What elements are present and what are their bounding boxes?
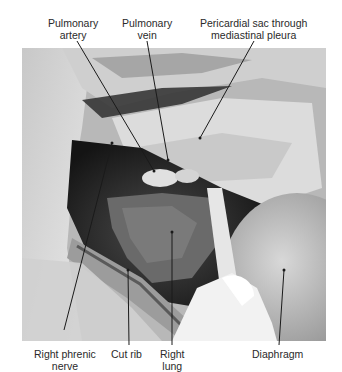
label-right-phrenic-nerve: Right phrenic nerve <box>34 348 96 372</box>
label-cut-rib: Cut rib <box>111 348 142 360</box>
label-line: Diaphragm <box>252 348 303 360</box>
label-line: Pericardial sac through <box>200 17 307 29</box>
label-pulmonary-vein: Pulmonary vein <box>122 17 172 41</box>
label-line: lung <box>160 360 185 372</box>
label-line: Pulmonary <box>122 17 172 29</box>
label-line: Right phrenic <box>34 348 96 360</box>
label-line: Cut rib <box>111 348 142 360</box>
label-pericardial-sac: Pericardial sac through mediastinal pleu… <box>200 17 307 41</box>
label-line: Pulmonary <box>48 17 98 29</box>
label-line: artery <box>48 29 98 41</box>
label-line: Right <box>160 348 185 360</box>
leader-lines <box>0 0 342 372</box>
label-line: vein <box>122 29 172 41</box>
label-line: mediastinal pleura <box>200 29 307 41</box>
label-right-lung: Right lung <box>160 348 185 372</box>
label-line: nerve <box>34 360 96 372</box>
label-pulmonary-artery: Pulmonary artery <box>48 17 98 41</box>
label-diaphragm: Diaphragm <box>252 348 303 360</box>
